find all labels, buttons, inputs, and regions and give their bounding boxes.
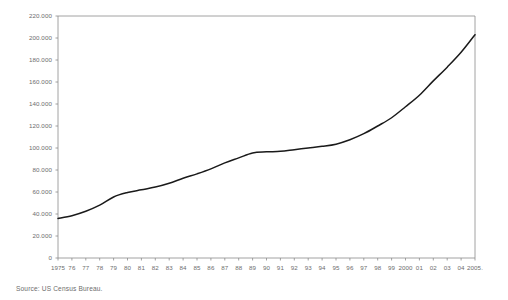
chart-container: 220.000200.000180.000160.000140.000120.0… [0,0,508,300]
y-axis-tick-label: 140.000 [0,101,52,107]
y-axis-tick-label: 80.000 [0,167,52,173]
y-axis-tick-label: 20.000 [0,233,52,239]
y-axis-tick-label: 40.000 [0,211,52,217]
y-axis-tick-label: 200.000 [0,35,52,41]
x-axis-tick-label: 2005. [464,265,486,271]
source-note: Source: US Census Bureau. [16,285,103,293]
plot-border [58,16,475,258]
y-axis-tick-label: 60.000 [0,189,52,195]
series-line-value [58,35,475,219]
line-chart-canvas [0,0,508,300]
y-axis-tick-label: 160.000 [0,79,52,85]
y-axis-tick-label: 120.000 [0,123,52,129]
y-axis-tick-label: 180.000 [0,57,52,63]
y-axis-tick-label: 220.000 [0,13,52,19]
plot-frame [58,16,475,258]
y-axis-tick-label: 0 [0,255,52,261]
data-series-group [58,35,475,219]
y-axis-tick-label: 100.000 [0,145,52,151]
